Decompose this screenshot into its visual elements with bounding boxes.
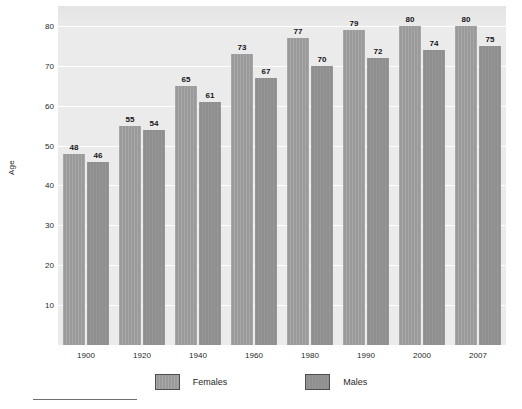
bar-value-label: 79 (350, 19, 359, 28)
bar-males-2000 (423, 50, 445, 345)
plot-area: 48465554656173677770797280748075 (58, 6, 506, 345)
bar-females-2000 (399, 26, 421, 345)
x-axis-tick-label-1940: 1940 (189, 351, 207, 360)
bar-value-label: 72 (374, 47, 383, 56)
bar-males-1990 (367, 58, 389, 345)
bar-value-label: 55 (126, 115, 135, 124)
bar-males-1900 (87, 162, 109, 345)
x-axis-tick-label-1900: 1900 (77, 351, 95, 360)
y-axis-title: Age (7, 157, 16, 179)
legend: FemalesMales (0, 374, 522, 390)
legend-label: Females (193, 377, 228, 387)
x-axis-tick-label-1960: 1960 (245, 351, 263, 360)
bar-value-label: 48 (70, 143, 79, 152)
bar-males-2007 (479, 46, 501, 345)
x-axis-tick-label-1920: 1920 (133, 351, 151, 360)
bar-value-label: 46 (94, 151, 103, 160)
bar-value-label: 77 (294, 27, 303, 36)
bar-females-1960 (231, 54, 253, 345)
y-axis-tick-label: 10 (30, 301, 54, 310)
legend-label: Males (343, 377, 367, 387)
x-axis-tick-label-2007: 2007 (469, 351, 487, 360)
bar-value-label: 61 (206, 91, 215, 100)
y-axis-tick-label: 40 (30, 181, 54, 190)
bar-value-label: 74 (430, 39, 439, 48)
bar-males-1920 (143, 130, 165, 345)
bar-males-1980 (311, 66, 333, 345)
bar-females-1980 (287, 38, 309, 345)
bar-females-2007 (455, 26, 477, 345)
y-axis-tick-label: 20 (30, 261, 54, 270)
bar-females-1940 (175, 86, 197, 345)
y-axis-tick-label: 50 (30, 141, 54, 150)
bar-males-1960 (255, 78, 277, 345)
bar-value-label: 65 (182, 75, 191, 84)
bar-females-1900 (63, 154, 85, 345)
legend-swatch-males (305, 374, 330, 390)
footer-rule (33, 399, 137, 400)
bar-females-1990 (343, 30, 365, 345)
bar-value-label: 80 (406, 15, 415, 24)
x-axis-tick-label-1990: 1990 (357, 351, 375, 360)
bar-value-label: 73 (238, 43, 247, 52)
bar-females-1920 (119, 126, 141, 345)
bar-value-label: 80 (462, 15, 471, 24)
y-axis-tick-label: 30 (30, 221, 54, 230)
x-axis-tick-label-2000: 2000 (413, 351, 431, 360)
legend-item-males[interactable]: Males (305, 374, 367, 390)
legend-swatch-females (155, 374, 180, 390)
bar-value-label: 75 (486, 35, 495, 44)
life-expectancy-bar-chart: Age 1020304050607080 4846555465617367777… (0, 0, 522, 409)
y-axis-tick-label: 80 (30, 21, 54, 30)
legend-item-females[interactable]: Females (155, 374, 228, 390)
bar-males-1940 (199, 102, 221, 345)
bar-value-label: 54 (150, 119, 159, 128)
y-axis-tick-label: 70 (30, 61, 54, 70)
bar-value-label: 67 (262, 67, 271, 76)
x-axis-tick-label-1980: 1980 (301, 351, 319, 360)
bar-value-label: 70 (318, 55, 327, 64)
y-axis-tick-label: 60 (30, 101, 54, 110)
gridline (58, 26, 506, 27)
